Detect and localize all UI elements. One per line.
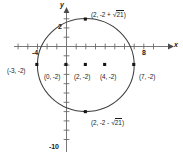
point-marker-7-minus2 — [132, 63, 135, 66]
point-marker-top-radical — [84, 18, 87, 21]
x-tick-label-8: 8 — [142, 49, 146, 56]
radical-bottom: √21 — [111, 119, 122, 126]
y-tick-label-2: 2 — [58, 23, 62, 30]
radicand-bottom: 21 — [115, 118, 123, 126]
point-marker-0-minus2 — [64, 63, 67, 66]
point-label-bottom-suffix: ) — [122, 119, 124, 126]
point-marker-bottom-radical — [84, 110, 87, 113]
point-label-7-minus2: (7, -2) — [139, 74, 155, 80]
point-label-2-minus2: (2, -2) — [74, 74, 90, 80]
radicand-top: 21 — [116, 10, 124, 18]
point-marker-minus3-minus2 — [35, 63, 38, 66]
point-label-top-prefix: (2, -2 + — [91, 11, 112, 18]
point-label-bottom-prefix: (2, -2 - — [91, 119, 111, 126]
circle-graph-figure: y x -4 8 2 -10 (2, -2 + √21) (2, -2 - √2… — [0, 0, 183, 161]
y-axis-arrow — [64, 7, 70, 13]
radical-top: √21 — [112, 11, 123, 18]
point-label-minus3-minus2: (-3, -2) — [7, 68, 25, 74]
coordinate-plane-svg — [0, 0, 183, 161]
point-marker-2-minus2 — [84, 63, 87, 66]
point-label-4-minus2: (4, -2) — [100, 74, 116, 80]
point-label-0-minus2: (0, -2) — [44, 74, 60, 80]
x-axis-label: x — [174, 41, 178, 48]
y-axis-label: y — [60, 1, 64, 8]
point-label-top: (2, -2 + √21) — [91, 11, 126, 18]
point-marker-4-minus2 — [103, 63, 106, 66]
x-tick-label-minus-4: -4 — [32, 49, 38, 56]
point-label-bottom: (2, -2 - √21) — [91, 119, 124, 126]
y-tick-label-minus-10: -10 — [49, 143, 59, 150]
